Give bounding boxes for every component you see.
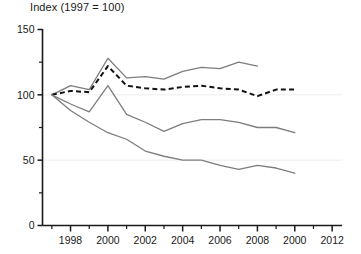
y-tick-label-100: 100 xyxy=(17,89,35,101)
y-tick-label-0: 0 xyxy=(29,219,35,231)
x-tick-label-2000: 2000 xyxy=(96,234,120,246)
y-tick-label-50: 50 xyxy=(23,154,35,166)
x-tick-label-2012: 2012 xyxy=(320,234,344,246)
x-tick-label-2006: 2006 xyxy=(208,234,232,246)
data-series-group xyxy=(52,58,295,173)
axes xyxy=(43,29,343,226)
x-tick-label-2010: 2000 xyxy=(283,234,307,246)
x-tick-label-2004: 2004 xyxy=(171,234,195,246)
gridlines xyxy=(43,95,342,160)
x-tick-label-2008: 2008 xyxy=(246,234,270,246)
series-dashed-black-line xyxy=(52,66,295,96)
chart-container: Index (1997 = 100) 050100150199820002002… xyxy=(0,0,361,254)
line-chart-plot: 0501001501998200020022004200620082000201… xyxy=(0,0,361,254)
y-tick-label-150: 150 xyxy=(17,23,35,35)
x-tick-label-1998: 1998 xyxy=(59,234,83,246)
series-lower-grey-line xyxy=(52,95,295,173)
x-tick-label-2002: 2002 xyxy=(134,234,158,246)
axis-tick-labels: 0501001501998200020022004200620082000201… xyxy=(17,23,344,245)
